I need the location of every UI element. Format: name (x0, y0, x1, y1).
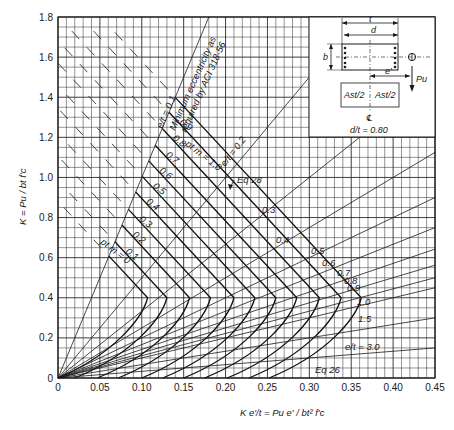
y-tick-label: 1.4 (39, 92, 53, 103)
y-tick-label: 0.2 (39, 332, 53, 343)
x-tick-label: 0.40 (383, 382, 403, 393)
inset-b-label: b (323, 52, 328, 62)
et-label: 1.5 (358, 313, 372, 324)
et-label: 0.4 (276, 234, 289, 245)
y-tick-label: 0.8 (39, 212, 53, 223)
y-tick-label: 1.2 (39, 132, 53, 143)
x-tick-label: 0.20 (216, 382, 236, 393)
ptm-label: 0.5 (151, 180, 169, 197)
section-inset: t d b (309, 14, 435, 137)
y-axis-title: K = Pu / bt f'c (17, 168, 28, 225)
y-tick-label: 0 (47, 373, 53, 384)
inset-ratio: d/t = 0.80 (350, 125, 388, 135)
et-label: 0.3 (262, 204, 276, 215)
x-axis-title: K e'/t = Pu e' / bt² f'c (240, 407, 325, 418)
inset-ast-right: Ast/2 (374, 90, 396, 100)
x-tick-label: 0.45 (425, 382, 445, 393)
y-tick-label: 1.8 (39, 12, 53, 23)
y-tick-label: 0.4 (39, 292, 53, 303)
et-label: 0.5 (311, 245, 325, 256)
svg-text:K = Pu / bt f'c: K = Pu / bt f'c (17, 168, 28, 225)
et-label: 0.9 (347, 282, 361, 293)
svg-text:K e'/t = Pu e' / bt² f'c: K e'/t = Pu e' / bt² f'c (240, 407, 325, 418)
label-eq28: Eq 28 (237, 174, 263, 185)
inset-ast-left: Ast/2 (343, 90, 365, 100)
x-tick-label: 0.05 (90, 382, 110, 393)
x-tick-label: 0 (55, 382, 61, 393)
ptm-label: 0.4 (145, 196, 162, 213)
inset-centerline: ℄ (366, 113, 372, 123)
x-tick-label: 0.10 (132, 382, 152, 393)
y-tick-label: 1.0 (39, 172, 53, 183)
et-label: 0.6 (322, 257, 336, 268)
label-et30: e/t = 3.0 (345, 341, 380, 352)
x-tick-label: 0.15 (174, 382, 194, 393)
y-tick-label: 1.6 (39, 52, 53, 63)
y-tick-label: 0.6 (39, 252, 53, 263)
x-tick-label: 0.30 (300, 382, 320, 393)
label-eq26: Eq 26 (315, 364, 341, 375)
inset-eprime-label: e' (385, 66, 392, 76)
label-ptm10: pt m = 1.0 (183, 137, 225, 173)
inset-pu-label: Pu (416, 74, 427, 84)
interaction-chart: 00.050.100.150.200.250.300.350.400.4500.… (0, 0, 454, 430)
x-tick-label: 0.35 (341, 382, 361, 393)
x-tick-label: 0.25 (258, 382, 278, 393)
et-label: 1.0 (357, 296, 371, 307)
